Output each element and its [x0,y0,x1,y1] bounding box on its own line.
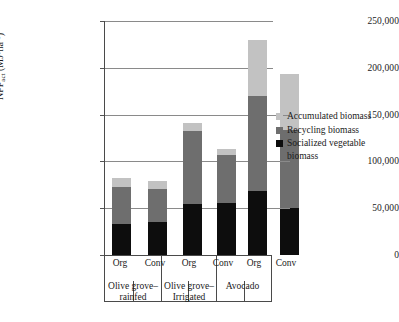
bar-segment-socialized [148,222,167,255]
bar-segment-accumulated [183,123,202,131]
bar-olive-rainfed-conv[interactable] [148,181,167,255]
y-axis-title-sup: -1 [0,36,2,42]
y-tick-label-0: 0 [303,251,399,261]
chart-legend: Accumulated biomass Recycling biomass So… [276,110,396,163]
x-group-label-olive-irrigated: Olive grove– Irrigated [158,281,220,302]
bar-segment-recycling [183,131,202,204]
bar-segment-accumulated [112,178,131,186]
gridline-250000 [105,21,273,22]
legend-label-socialized-vegetable-biomass: Socialized vegetable biomass [287,137,396,162]
bar-segment-recycling [148,189,167,222]
plot-area [104,21,272,255]
x-tick-label-olive-irrigated-org: Org [172,258,206,268]
y-axis-title-main: NPP [0,82,5,100]
bar-avocado-conv[interactable] [280,74,299,255]
accumulated-biomass-swatch-icon [276,113,283,120]
x-tick-label-olive-irrigated-conv: Conv [206,258,240,268]
bar-segment-accumulated [148,181,167,189]
legend-item-recycling-biomass[interactable]: Recycling biomass [276,124,396,137]
x-tick-label-olive-rainfed-org: Org [103,258,137,268]
bar-segment-socialized [280,208,299,255]
x-group-label-avocado: Avocado [215,281,270,292]
x-tick-label-olive-rainfed-conv: Conv [138,258,172,268]
x-group-label-olive-rainfed: Olive grove– rainfed [102,281,164,302]
leader-line-socialized [272,208,290,209]
bar-segment-socialized [183,204,202,255]
y-tick-label-50000: 50,000 [303,204,399,214]
bar-segment-recycling [112,187,131,224]
bar-segment-recycling [248,96,267,192]
x-tick-label-avocado-org: Org [237,258,271,268]
x-tick-label-avocado-conv: Conv [269,258,303,268]
bar-segment-socialized [248,191,267,255]
x-group-label-olive-irrigated-line2: Irrigated [158,292,220,303]
recycling-biomass-swatch-icon [276,127,283,134]
y-axis-title-sub: act [0,73,7,81]
x-group-label-olive-rainfed-line1: Olive grove– [102,281,164,292]
x-group-label-avocado-line1: Avocado [215,281,270,292]
y-axis-title: NPPact (MJ·ha-1) [0,0,7,100]
bar-segment-socialized [217,203,236,255]
bar-segment-recycling [217,155,236,204]
y-tick-label-200000: 200,000 [303,63,399,73]
legend-item-socialized-vegetable-biomass[interactable]: Socialized vegetable biomass [276,137,396,162]
chart-figure: NPPact (MJ·ha-1) 250,000 200,000 150,000… [0,0,399,322]
x-group-label-olive-irrigated-line1: Olive grove– [158,281,220,292]
x-axis-category-box: Org Conv Org Conv Org Conv Olive grove– … [104,255,272,302]
y-axis-title-unit-close: ) [0,33,5,36]
bar-olive-irrigated-conv[interactable] [217,149,236,255]
legend-label-accumulated-biomass: Accumulated biomass [287,110,396,123]
y-axis-title-unit-open: (MJ·ha [0,42,5,73]
y-tick-label-250000: 250,000 [303,17,399,27]
bar-segment-socialized [112,224,131,255]
bar-segment-accumulated [248,40,267,96]
bar-olive-rainfed-org[interactable] [112,178,131,255]
socialized-vegetable-biomass-swatch-icon [276,140,283,147]
legend-label-recycling-biomass: Recycling biomass [287,124,396,137]
x-group-label-olive-rainfed-line2: rainfed [102,292,164,303]
bar-olive-irrigated-org[interactable] [183,123,202,255]
bar-avocado-org[interactable] [248,40,267,255]
legend-item-accumulated-biomass[interactable]: Accumulated biomass [276,110,396,123]
